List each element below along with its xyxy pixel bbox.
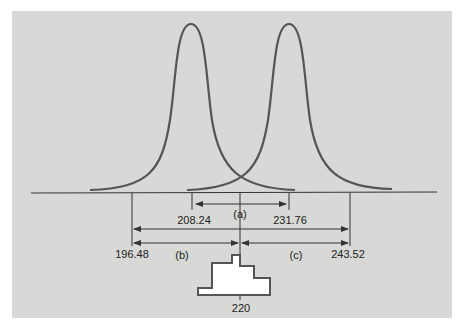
label-b: (b)	[175, 249, 188, 261]
label-center: 220	[232, 302, 250, 314]
label-a: (a)	[233, 208, 246, 220]
baseline	[31, 192, 437, 193]
label-231: 231.76	[273, 214, 307, 226]
label-c: (c)	[290, 249, 303, 261]
left-distribution-curve	[90, 24, 295, 190]
label-243: 243.52	[331, 248, 365, 260]
histogram-shape	[198, 255, 270, 295]
right-distribution-curve	[187, 24, 392, 190]
label-208: 208.24	[177, 214, 211, 226]
label-196: 196.48	[115, 248, 149, 260]
diagram-graphic	[0, 0, 463, 327]
